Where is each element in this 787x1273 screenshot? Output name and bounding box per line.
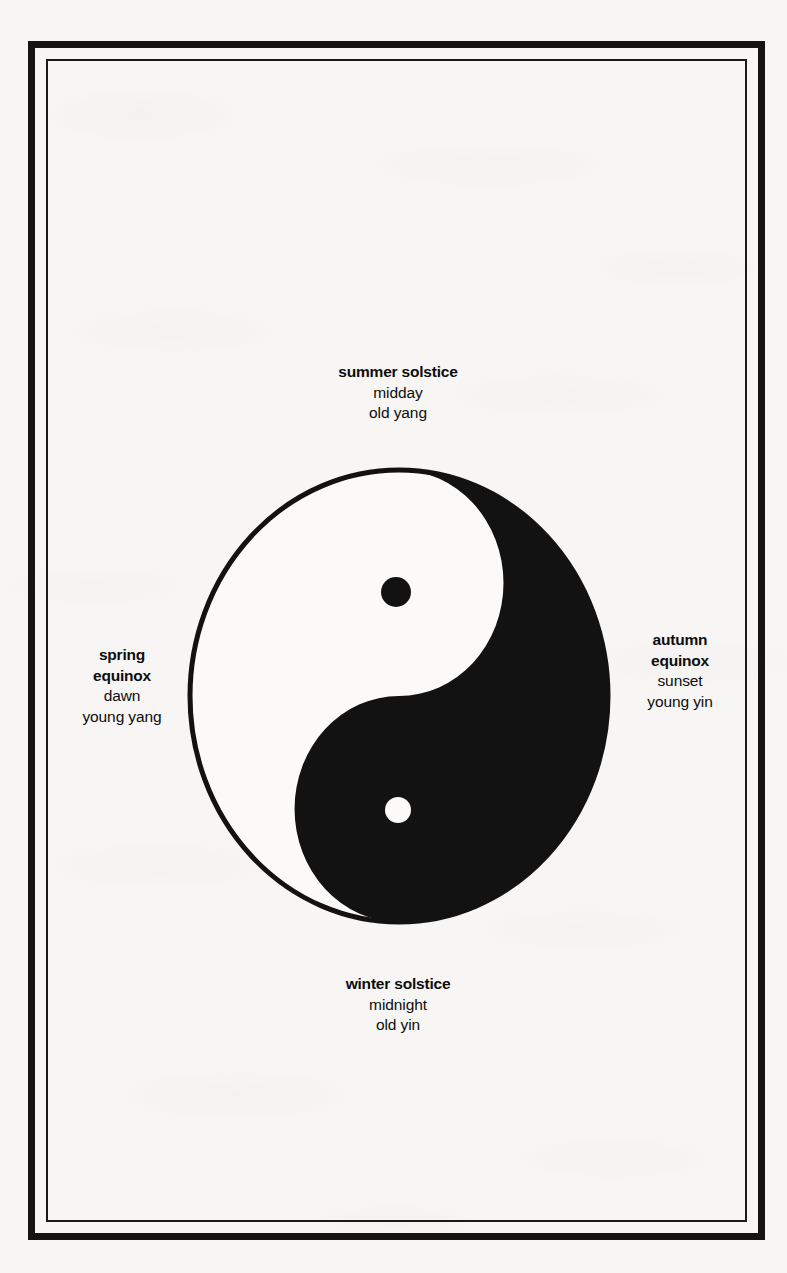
label-summer-line-1: summer solstice	[338, 362, 457, 383]
label-spring-equinox: spring equinox dawn young yang	[82, 645, 161, 727]
label-spring-line-3: dawn	[82, 686, 161, 707]
label-spring-line-1: spring	[82, 645, 161, 666]
label-winter-line-2: midnight	[346, 995, 451, 1016]
label-summer-line-2: midday	[338, 383, 457, 404]
label-autumn-line-4: young yin	[647, 692, 712, 713]
taijitu-figure	[186, 466, 612, 926]
label-autumn-equinox: autumn equinox sunset young yin	[647, 630, 712, 712]
label-winter-solstice: winter solstice midnight old yin	[346, 974, 451, 1036]
label-winter-line-1: winter solstice	[346, 974, 451, 995]
scanned-page: summer solstice midday old yang winter s…	[0, 0, 787, 1273]
label-spring-line-4: young yang	[82, 707, 161, 728]
label-summer-solstice: summer solstice midday old yang	[338, 362, 457, 424]
label-autumn-line-2: equinox	[647, 651, 712, 672]
yin-dot	[381, 577, 411, 607]
label-summer-line-3: old yang	[338, 403, 457, 424]
yang-dot	[385, 797, 411, 823]
label-spring-line-2: equinox	[82, 666, 161, 687]
label-autumn-line-1: autumn	[647, 630, 712, 651]
label-winter-line-3: old yin	[346, 1015, 451, 1036]
label-autumn-line-3: sunset	[647, 671, 712, 692]
